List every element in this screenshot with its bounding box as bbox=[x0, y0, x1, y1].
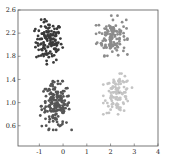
data-point bbox=[55, 129, 58, 132]
data-point bbox=[117, 113, 120, 116]
data-point bbox=[126, 87, 129, 90]
data-point bbox=[111, 50, 114, 53]
data-point bbox=[57, 115, 60, 118]
data-point bbox=[43, 21, 46, 24]
data-point bbox=[54, 116, 57, 119]
data-point bbox=[116, 14, 119, 17]
x-tick-label: 0 bbox=[61, 148, 65, 156]
data-point bbox=[53, 27, 56, 30]
data-point bbox=[40, 125, 43, 128]
data-point bbox=[119, 82, 122, 85]
y-tick-label: 2.2 bbox=[6, 29, 16, 37]
x-tick-label: 2 bbox=[108, 148, 112, 156]
data-point bbox=[56, 43, 59, 46]
data-point bbox=[114, 24, 117, 27]
data-point bbox=[121, 21, 124, 24]
data-point bbox=[122, 35, 125, 38]
data-point bbox=[101, 32, 104, 35]
data-point bbox=[122, 50, 125, 53]
x-tick-label: 1 bbox=[85, 148, 89, 156]
data-point bbox=[52, 88, 55, 91]
data-point bbox=[50, 42, 53, 45]
data-point bbox=[47, 23, 50, 26]
x-tick-label: -1 bbox=[36, 148, 42, 156]
data-point bbox=[59, 82, 62, 85]
data-point bbox=[109, 33, 112, 36]
data-point bbox=[95, 32, 98, 35]
data-point bbox=[123, 109, 126, 112]
data-point bbox=[121, 92, 124, 95]
data-point bbox=[123, 86, 126, 89]
data-point bbox=[47, 45, 50, 48]
data-point bbox=[39, 114, 42, 117]
data-point bbox=[104, 43, 107, 46]
data-point bbox=[105, 46, 108, 49]
data-point bbox=[46, 53, 49, 56]
data-point bbox=[102, 46, 105, 49]
data-point bbox=[124, 91, 127, 94]
y-tick-label: 2.6 bbox=[6, 6, 16, 14]
data-point bbox=[118, 28, 121, 31]
data-point bbox=[104, 99, 107, 102]
data-point bbox=[48, 88, 51, 91]
data-point bbox=[125, 80, 128, 83]
data-point bbox=[55, 59, 58, 62]
data-point bbox=[45, 59, 48, 62]
data-point bbox=[56, 82, 59, 85]
data-point bbox=[119, 109, 122, 112]
data-point bbox=[45, 88, 48, 91]
x-tick-label: 4 bbox=[156, 148, 160, 156]
data-point bbox=[52, 120, 55, 123]
data-point bbox=[63, 99, 66, 102]
data-point bbox=[98, 24, 101, 27]
data-point bbox=[37, 48, 40, 51]
data-point bbox=[47, 56, 50, 59]
data-point bbox=[61, 108, 64, 111]
data-point bbox=[43, 18, 46, 21]
data-point bbox=[44, 36, 47, 39]
data-point bbox=[96, 41, 99, 44]
data-point bbox=[48, 26, 51, 29]
data-point bbox=[37, 55, 40, 58]
data-point bbox=[116, 102, 119, 105]
data-point bbox=[40, 25, 43, 28]
data-point bbox=[40, 108, 43, 111]
series-cluster-bottom-left bbox=[39, 80, 73, 132]
data-point bbox=[119, 31, 122, 34]
x-tick-label: 3 bbox=[132, 148, 136, 156]
data-point bbox=[102, 102, 105, 105]
data-point bbox=[52, 109, 55, 112]
data-point bbox=[52, 25, 55, 28]
data-point bbox=[40, 18, 43, 21]
data-point bbox=[116, 46, 119, 49]
data-point bbox=[125, 98, 128, 101]
data-point bbox=[100, 42, 103, 45]
data-point bbox=[61, 80, 64, 83]
data-point bbox=[115, 38, 118, 41]
data-point bbox=[51, 81, 54, 84]
data-point bbox=[56, 92, 59, 95]
data-point bbox=[59, 96, 62, 99]
data-point bbox=[109, 47, 112, 50]
data-point bbox=[53, 31, 56, 34]
data-point bbox=[95, 24, 98, 27]
data-point bbox=[112, 79, 115, 82]
data-point bbox=[126, 37, 129, 40]
data-point bbox=[113, 34, 116, 37]
data-point bbox=[112, 91, 115, 94]
data-point bbox=[42, 90, 45, 93]
data-point bbox=[125, 19, 128, 22]
data-point bbox=[98, 31, 101, 34]
data-point bbox=[111, 86, 114, 89]
data-point bbox=[107, 105, 110, 108]
data-point bbox=[63, 90, 66, 93]
data-point bbox=[49, 97, 52, 100]
data-point bbox=[122, 32, 125, 35]
data-point bbox=[123, 38, 126, 41]
data-point bbox=[61, 46, 64, 49]
data-point bbox=[57, 25, 60, 28]
data-point bbox=[68, 108, 71, 111]
data-point bbox=[109, 96, 112, 99]
y-tick-label: 1.8 bbox=[6, 52, 16, 60]
series-cluster-bottom-right bbox=[102, 72, 134, 116]
